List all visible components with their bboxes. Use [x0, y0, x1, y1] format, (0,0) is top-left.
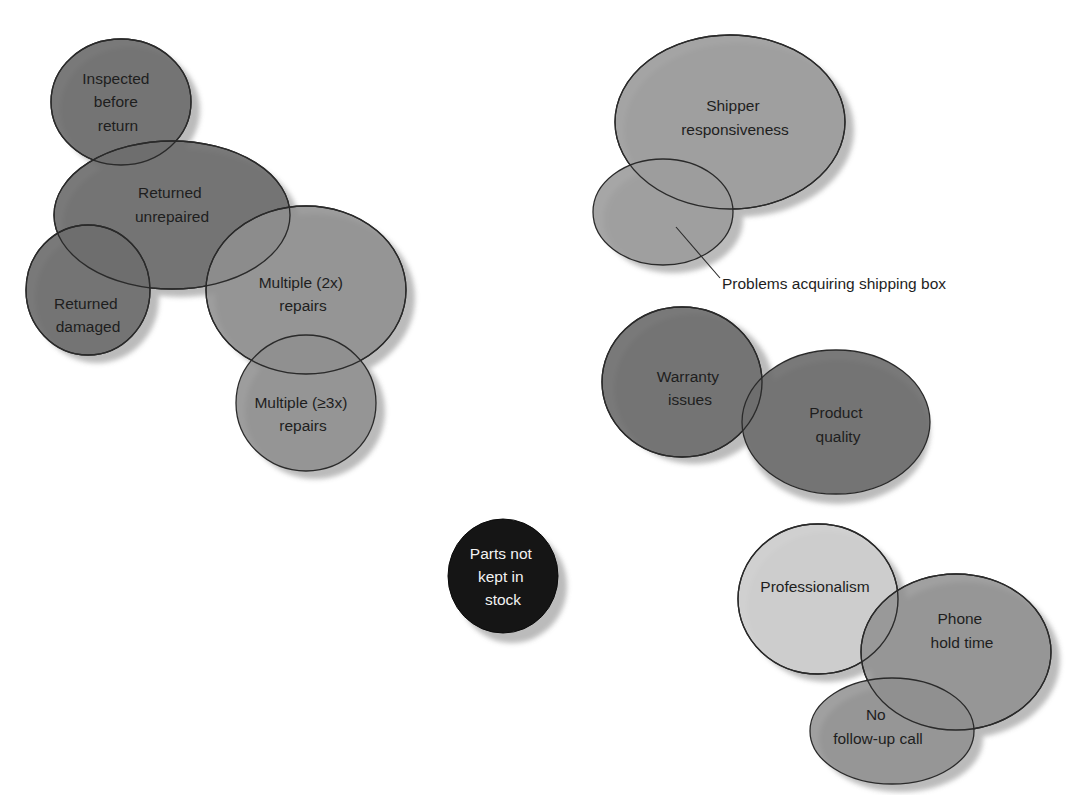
callout-shipping-box: Problems acquiring shipping box: [722, 275, 946, 292]
bubble-shipping-box: [593, 159, 733, 265]
cluster-service-issues: Professionalism Phone hold time No follo…: [738, 524, 1060, 792]
bubble-product-quality: [742, 350, 930, 494]
cluster-product-issues: Warranty issues Product quality: [602, 307, 930, 504]
label-professionalism: Professionalism: [760, 578, 869, 595]
cluster-shipping-issues: Shipper responsiveness Problems acquirin…: [593, 35, 946, 292]
cluster-repair-issues: Inspected before return Returned unrepai…: [26, 39, 415, 479]
bubble-diagram: Inspected before return Returned unrepai…: [0, 0, 1066, 795]
cluster-stock-issues: Parts not kept in stock: [448, 519, 567, 643]
